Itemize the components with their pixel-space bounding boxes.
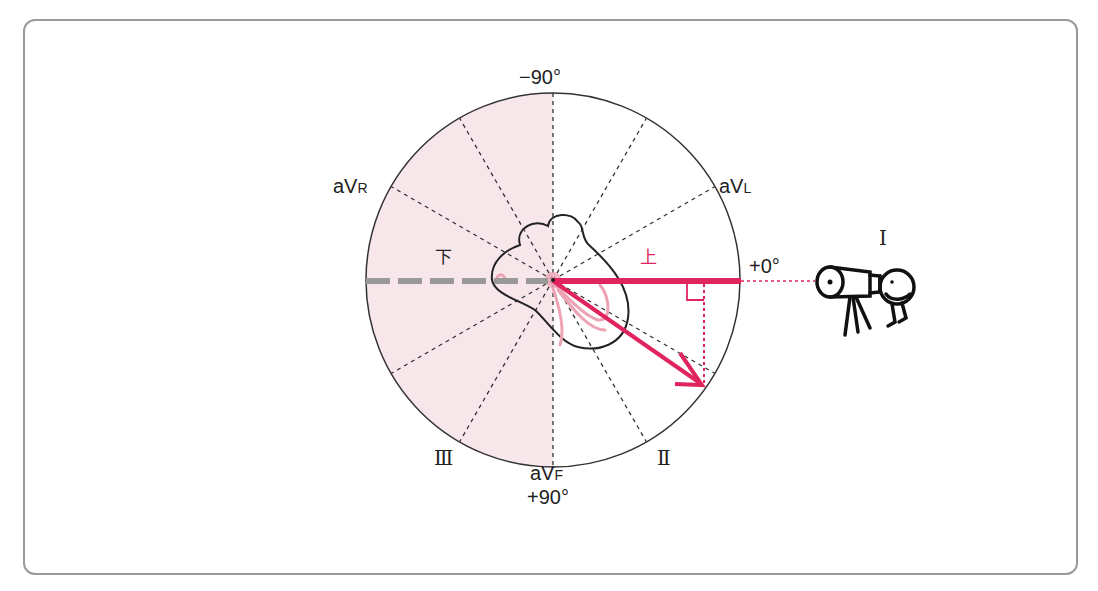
right-angle-mark (687, 284, 704, 300)
lead-avf-sub: F (554, 467, 563, 483)
center-dot (551, 278, 555, 282)
direction-label-down: 下 (435, 249, 452, 266)
lead-avl-sub: L (743, 180, 751, 196)
lead-label-i: I (879, 228, 887, 248)
lead-avr-sub: R (357, 180, 367, 196)
lead-label-iii: Ⅲ (434, 448, 453, 468)
lead-label-avf: aVF (530, 463, 563, 483)
lead-avf-main: aV (530, 462, 554, 484)
negative-half-shading (366, 93, 553, 467)
lead-label-avr: aVR (333, 176, 368, 196)
lead-avr-main: aV (333, 175, 357, 197)
lead-avl-main: aV (719, 175, 743, 197)
angle-label-minus-90: −90° (519, 67, 561, 87)
angle-label-plus-90: +90° (527, 487, 569, 507)
telescope-observer-icon (817, 267, 914, 335)
direction-label-up: 上 (640, 249, 657, 266)
angle-label-0: +0° (749, 256, 780, 276)
lead-label-ii: Ⅱ (657, 448, 671, 468)
lead-label-avl: aVL (719, 176, 751, 196)
